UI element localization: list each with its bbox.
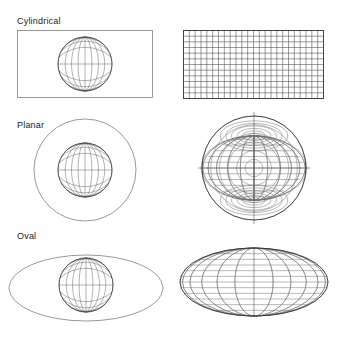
projection-row-planar: Planar [0,112,337,225]
oval-graticule [180,248,328,316]
map-projection-figure: Cylindrical [0,0,337,338]
planar-surface-panel [0,112,170,225]
oval-graticule-panel [170,225,337,338]
oval-surface-panel [0,225,170,338]
projection-row-cylindrical: Cylindrical [0,0,337,112]
planar-graticule [198,112,310,224]
globe-oval [59,258,113,312]
cylindrical-graticule [184,31,324,99]
planar-graticule-panel [170,112,337,225]
globe-cylindrical [58,37,112,91]
globe-planar [58,143,112,197]
projection-row-oval: Oval [0,225,337,338]
cylindrical-graticule-panel [170,0,337,112]
cylindrical-surface-panel [0,0,170,112]
